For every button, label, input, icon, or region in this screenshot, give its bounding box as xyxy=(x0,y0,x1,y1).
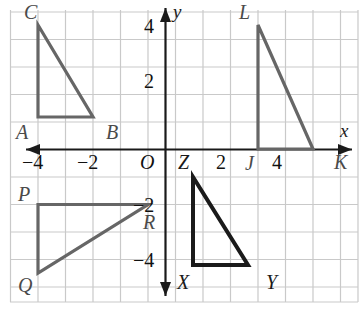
y-axis xyxy=(160,8,171,296)
y-axis-arrow-down xyxy=(160,282,171,296)
triangle-XYZ xyxy=(193,177,248,265)
x-tick-2: 2 xyxy=(216,152,226,172)
vertex-label-K: K xyxy=(334,152,347,172)
x-tick-neg4: −4 xyxy=(22,152,43,172)
vertex-label-R: R xyxy=(143,212,155,232)
x-tick-4: 4 xyxy=(272,152,282,172)
vertex-label-L: L xyxy=(239,2,250,22)
origin-label: O xyxy=(140,152,154,172)
x-axis-label: x xyxy=(340,121,348,140)
y-tick-4: 4 xyxy=(144,16,154,36)
vertex-label-Y: Y xyxy=(266,272,277,292)
vertex-label-Q: Q xyxy=(18,275,32,295)
coordinate-plane-figure: y x −4 −2 O 2 4 4 2 −2 −4 C A B L J K P … xyxy=(0,0,364,314)
vertex-label-X: X xyxy=(177,272,189,292)
y-tick-2: 2 xyxy=(144,71,154,91)
vertex-label-Z: Z xyxy=(178,152,189,172)
y-axis-label: y xyxy=(173,2,181,21)
y-axis-arrow-up xyxy=(160,8,171,22)
vertex-label-C: C xyxy=(24,2,37,22)
x-tick-neg2: −2 xyxy=(77,152,98,172)
vertex-label-B: B xyxy=(106,122,118,142)
vertex-label-J: J xyxy=(245,153,254,173)
y-tick-neg4: −4 xyxy=(133,250,154,270)
vertex-label-A: A xyxy=(16,122,28,142)
vertex-label-P: P xyxy=(18,184,30,204)
